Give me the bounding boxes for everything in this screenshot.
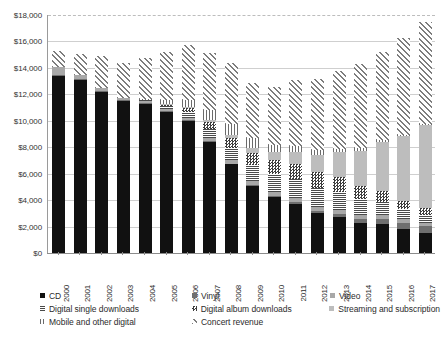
y-axis-tick-label: $4,000: [0, 196, 42, 205]
bar-segment-digital-album-downloads: [246, 153, 259, 165]
legend-label: Digital album downloads: [201, 304, 292, 314]
bar-segment-digital-single-downloads: [246, 165, 259, 181]
legend-item-vinyl[interactable]: Vinyl: [192, 291, 330, 301]
x-axis-tick: [122, 252, 123, 255]
x-axis-line: [47, 253, 435, 254]
legend-item-video[interactable]: Video: [330, 291, 360, 301]
bar-2001: [74, 54, 87, 253]
bar-segment-cd: [397, 229, 410, 253]
bar-segment-concert-revenue: [354, 64, 367, 149]
x-axis-tick: [360, 252, 361, 255]
legend-label: CD: [49, 291, 61, 301]
bar-segment-mobile-and-other-digital: [182, 100, 195, 107]
x-axis-tick: [273, 252, 274, 255]
y-axis-tick-label: $8,000: [0, 143, 42, 152]
bar-segment-streaming-and-subscription: [311, 155, 324, 172]
x-axis-tick: [187, 252, 188, 255]
bar-segment-streaming-and-subscription: [419, 125, 432, 208]
bar-group: [48, 15, 435, 253]
bar-segment-cd: [182, 121, 195, 253]
bar-2015: [376, 52, 389, 253]
x-axis-tick: [381, 252, 382, 255]
y-axis-tick-label: $12,000: [0, 90, 42, 99]
legend-item-cd[interactable]: CD: [40, 291, 192, 301]
y-axis-tick-label: $18,000: [0, 11, 42, 20]
legend-label: Mobile and other digital: [49, 317, 136, 327]
bar-segment-mobile-and-other-digital: [246, 138, 259, 147]
bar-segment-concert-revenue: [333, 71, 346, 149]
legend-item-mobile-and-other-digital[interactable]: Mobile and other digital: [40, 317, 192, 327]
bar-2011: [289, 80, 302, 253]
y-axis-tick-label: $2,000: [0, 222, 42, 231]
legend-swatch-icon: [40, 293, 45, 298]
y-axis-tick-label: $16,000: [0, 37, 42, 46]
x-axis-tick: [101, 252, 102, 255]
y-axis-tick-label: $14,000: [0, 63, 42, 72]
bar-segment-cd: [311, 213, 324, 253]
x-axis-tick: [144, 252, 145, 255]
stacked-bar-chart: $0$2,000$4,000$6,000$8,000$10,000$12,000…: [0, 0, 443, 340]
bar-segment-streaming-and-subscription: [289, 152, 302, 164]
bar-segment-video: [52, 67, 65, 75]
bar-2016: [397, 38, 410, 253]
bar-segment-concert-revenue: [268, 87, 281, 145]
bar-2003: [117, 63, 130, 253]
bar-segment-digital-album-downloads: [311, 172, 324, 188]
legend-label: Digital single downloads: [49, 304, 139, 314]
legend-item-digital-album-downloads[interactable]: Digital album downloads: [192, 304, 330, 314]
y-axis-tick-label: $0: [0, 249, 42, 258]
legend-row: CDVinylVideo: [40, 289, 440, 302]
bar-segment-vinyl: [419, 226, 432, 233]
legend-label: Streaming and subscription: [338, 304, 440, 314]
bar-segment-cd: [225, 164, 238, 253]
legend-swatch-icon: [40, 306, 45, 311]
bar-segment-cd: [289, 204, 302, 253]
bar-segment-digital-single-downloads: [354, 199, 367, 214]
y-axis-tick-label: $6,000: [0, 169, 42, 178]
bar-segment-cd: [74, 80, 87, 253]
bar-2009: [246, 83, 259, 253]
bar-segment-cd: [160, 112, 173, 253]
bar-segment-digital-album-downloads: [376, 191, 389, 202]
legend-row: Mobile and other digitalConcert revenue: [40, 315, 440, 328]
bar-segment-digital-album-downloads: [203, 122, 216, 129]
bar-segment-streaming-and-subscription: [376, 142, 389, 191]
bar-2008: [225, 63, 238, 253]
bar-segment-concert-revenue: [74, 54, 87, 75]
bar-segment-digital-single-downloads: [225, 148, 238, 161]
bar-segment-cd: [333, 217, 346, 253]
bar-segment-concert-revenue: [139, 58, 152, 99]
bar-segment-cd: [139, 104, 152, 253]
x-axis-tick: [230, 252, 231, 255]
bar-segment-concert-revenue: [52, 51, 65, 67]
legend-swatch-icon: [192, 293, 197, 298]
bar-segment-digital-album-downloads: [289, 164, 302, 179]
x-axis-labels: 2000200120022003200420052006200720082009…: [47, 255, 435, 287]
bar-segment-digital-album-downloads: [397, 201, 410, 210]
bar-segment-mobile-and-other-digital: [225, 124, 238, 135]
bar-segment-cd: [117, 101, 130, 253]
legend-item-streaming-and-subscription[interactable]: Streaming and subscription: [329, 304, 440, 314]
bar-segment-concert-revenue: [311, 79, 324, 150]
bar-segment-concert-revenue: [376, 52, 389, 141]
bar-segment-digital-single-downloads: [419, 215, 432, 223]
bar-2002: [95, 56, 108, 253]
bar-segment-concert-revenue: [246, 83, 259, 139]
x-axis-tick: [295, 252, 296, 255]
legend-item-digital-single-downloads[interactable]: Digital single downloads: [40, 304, 192, 314]
bar-segment-concert-revenue: [117, 63, 130, 97]
y-axis-tick-label: $10,000: [0, 116, 42, 125]
x-axis-tick: [252, 252, 253, 255]
bar-segment-cd: [376, 224, 389, 253]
legend-label: Vinyl: [201, 291, 219, 301]
plot-area: [47, 15, 435, 253]
bar-segment-digital-album-downloads: [225, 138, 238, 147]
legend-label: Video: [339, 291, 360, 301]
bar-segment-cd: [419, 233, 432, 253]
bar-2006: [182, 45, 195, 253]
bar-segment-concert-revenue: [419, 22, 432, 124]
bar-segment-concert-revenue: [225, 63, 238, 124]
bar-segment-digital-single-downloads: [268, 174, 281, 192]
x-axis-tick: [316, 252, 317, 255]
legend-item-concert-revenue[interactable]: Concert revenue: [192, 317, 330, 327]
